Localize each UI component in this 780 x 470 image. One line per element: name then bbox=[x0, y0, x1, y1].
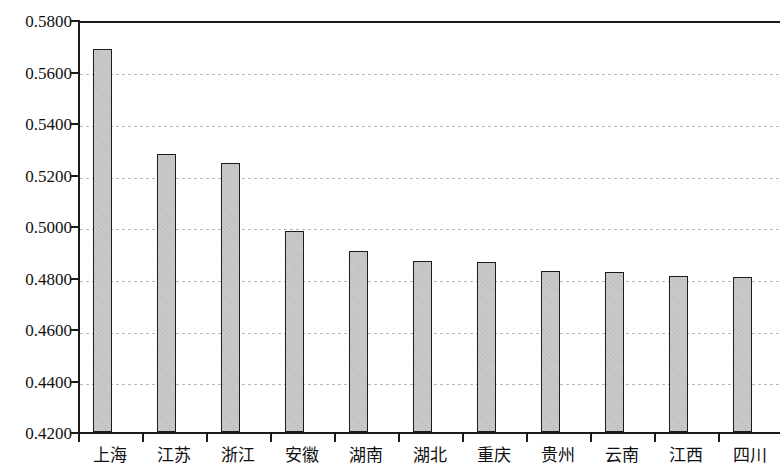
y-axis-tick-label-4: 0.5000 bbox=[2, 218, 72, 238]
y-axis-tick-label-6: 0.4600 bbox=[2, 321, 72, 341]
y-axis-tick-label-5: 0.4800 bbox=[2, 270, 72, 290]
x-axis-label-hunan: 湖南 bbox=[334, 441, 398, 466]
x-axis-label-hubei: 湖北 bbox=[398, 441, 462, 466]
x-axis-label-anhui: 安徽 bbox=[270, 441, 334, 466]
gridline-0.5200 bbox=[80, 178, 780, 179]
x-axis-label-sichuan: 四川 bbox=[718, 441, 780, 466]
x-axis-label-chongqing: 重庆 bbox=[462, 441, 526, 466]
y-axis-tick-label-1: 0.5600 bbox=[2, 64, 72, 84]
plot-area bbox=[78, 21, 780, 434]
bar-chart: 0.5800 0.5600 0.5400 0.5200 0.5000 0.480… bbox=[0, 0, 780, 470]
gridline-0.5000 bbox=[80, 229, 780, 230]
bar-hunan bbox=[349, 251, 368, 432]
bar-zhejiang bbox=[221, 163, 240, 432]
y-axis-tick-label-3: 0.5200 bbox=[2, 167, 72, 187]
x-axis-label-zhejiang: 浙江 bbox=[206, 441, 270, 466]
y-axis-tick-label-7: 0.4400 bbox=[2, 373, 72, 393]
bar-hubei bbox=[413, 261, 432, 432]
y-axis-tick-label-8: 0.4200 bbox=[2, 424, 72, 444]
x-axis-label-jiangsu: 江苏 bbox=[142, 441, 206, 466]
bar-guizhou bbox=[541, 271, 560, 432]
bar-jiangxi bbox=[669, 276, 688, 432]
bar-chongqing bbox=[477, 262, 496, 432]
x-axis-label-jiangxi: 江西 bbox=[654, 441, 718, 466]
gridline-0.5600 bbox=[80, 74, 780, 75]
bar-sichuan bbox=[733, 277, 752, 432]
y-axis-tick-label-2: 0.5400 bbox=[2, 115, 72, 135]
y-axis-tick-label-0: 0.5800 bbox=[2, 12, 72, 32]
bar-yunnan bbox=[605, 272, 624, 432]
bar-shanghai bbox=[93, 49, 112, 432]
x-axis-label-guizhou: 贵州 bbox=[526, 441, 590, 466]
bar-jiangsu bbox=[157, 154, 176, 432]
x-axis-label-yunnan: 云南 bbox=[590, 441, 654, 466]
gridline-0.5400 bbox=[80, 126, 780, 127]
x-axis-label-shanghai: 上海 bbox=[78, 441, 142, 466]
bar-anhui bbox=[285, 231, 304, 432]
